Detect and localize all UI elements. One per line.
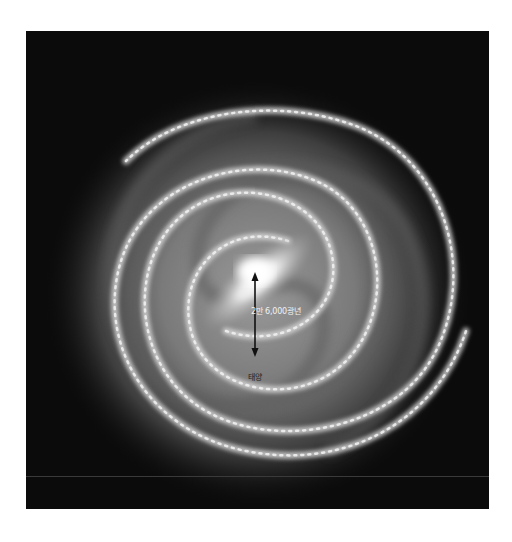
sun-label: 태양 (248, 371, 262, 382)
milky-way-illustration (26, 31, 489, 509)
scan-artifact-line (26, 476, 489, 477)
distance-label: 2만 6,000광년 (251, 305, 301, 316)
galaxy-image: 2만 6,000광년 태양 (26, 31, 489, 509)
